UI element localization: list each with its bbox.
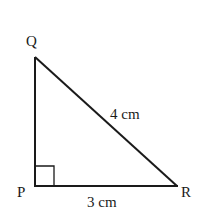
vertex-label-q: Q <box>26 33 37 49</box>
side-qr <box>35 57 177 186</box>
vertex-label-r: R <box>181 184 191 200</box>
vertex-label-p: P <box>17 184 25 200</box>
side-label-pr: 3 cm <box>87 194 117 210</box>
triangle-diagram: Q P R 4 cm 3 cm <box>0 0 204 224</box>
side-label-qr: 4 cm <box>110 106 140 122</box>
right-angle-marker <box>35 166 54 186</box>
